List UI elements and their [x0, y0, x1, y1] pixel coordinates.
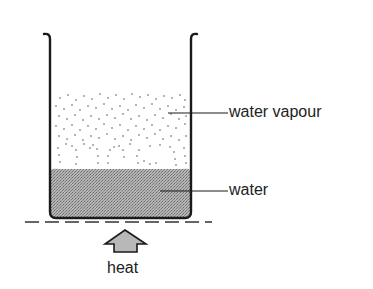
- diagram-canvas: [0, 0, 373, 289]
- label-water-vapour: water vapour: [229, 104, 322, 120]
- water-body: [51, 169, 190, 217]
- heat-arrow-icon: [105, 230, 146, 252]
- water-vapour-dots: [55, 93, 187, 166]
- label-heat: heat: [107, 260, 138, 276]
- label-water: water: [229, 182, 268, 198]
